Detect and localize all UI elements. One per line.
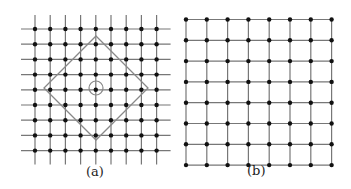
lattice-node: [154, 42, 158, 46]
lattice-node: [184, 80, 188, 84]
lattice-node: [33, 57, 37, 61]
lattice-node: [109, 27, 113, 31]
lattice-node: [205, 121, 209, 125]
lattice-node: [48, 148, 52, 152]
lattice-node: [63, 57, 67, 61]
lattice-node: [267, 101, 271, 105]
lattice-node: [63, 118, 67, 122]
lattice-node: [205, 59, 209, 63]
lattice-node: [33, 72, 37, 76]
lattice-node: [184, 17, 188, 21]
lattice-node: [139, 148, 143, 152]
lattice-node: [109, 42, 113, 46]
lattice-node: [124, 88, 128, 92]
lattice-node: [78, 148, 82, 152]
lattice-node: [329, 163, 333, 167]
lattice-node: [94, 88, 98, 92]
lattice-node: [267, 80, 271, 84]
lattice-node: [154, 148, 158, 152]
lattice-node: [267, 163, 271, 167]
lattice-node: [154, 118, 158, 122]
lattice-node: [225, 38, 229, 42]
lattice-node: [139, 42, 143, 46]
lattice-node: [78, 133, 82, 137]
lattice-node: [139, 103, 143, 107]
lattice-node: [225, 163, 229, 167]
lattice-node: [205, 101, 209, 105]
lattice-node: [288, 163, 292, 167]
lattice-node: [94, 57, 98, 61]
lattice-figure: [0, 0, 351, 189]
lattice-node: [48, 103, 52, 107]
lattice-node: [329, 101, 333, 105]
lattice-node: [225, 59, 229, 63]
lattice-node: [154, 133, 158, 137]
lattice-node: [184, 142, 188, 146]
lattice-node: [329, 38, 333, 42]
lattice-node: [225, 17, 229, 21]
lattice-node: [48, 118, 52, 122]
lattice-node: [63, 27, 67, 31]
lattice-node: [48, 72, 52, 76]
lattice-node: [267, 38, 271, 42]
lattice-node: [329, 80, 333, 84]
lattice-node: [329, 17, 333, 21]
lattice-node: [33, 88, 37, 92]
lattice-node: [246, 142, 250, 146]
lattice-node: [63, 42, 67, 46]
lattice-node: [154, 103, 158, 107]
lattice-node: [124, 72, 128, 76]
lattice-node: [184, 101, 188, 105]
lattice-node: [78, 42, 82, 46]
lattice-node: [205, 17, 209, 21]
lattice-node: [246, 17, 250, 21]
lattice-node: [154, 27, 158, 31]
lattice-node: [225, 121, 229, 125]
lattice-node: [329, 59, 333, 63]
lattice-node: [246, 101, 250, 105]
lattice-node: [288, 121, 292, 125]
lattice-node: [154, 72, 158, 76]
lattice-node: [288, 17, 292, 21]
lattice-node: [124, 148, 128, 152]
lattice-node: [109, 133, 113, 137]
lattice-node: [139, 72, 143, 76]
lattice-node: [109, 103, 113, 107]
lattice-node: [109, 72, 113, 76]
lattice-node: [33, 103, 37, 107]
lattice-node: [63, 72, 67, 76]
lattice-node: [329, 121, 333, 125]
lattice-node: [309, 80, 313, 84]
lattice-node: [246, 121, 250, 125]
lattice-node: [78, 57, 82, 61]
lattice-node: [205, 38, 209, 42]
lattice-node: [124, 133, 128, 137]
lattice-node: [94, 42, 98, 46]
lattice-node: [33, 133, 37, 137]
lattice-node: [309, 38, 313, 42]
lattice-node: [48, 88, 52, 92]
lattice-node: [288, 59, 292, 63]
lattice-node: [94, 27, 98, 31]
lattice-node: [288, 101, 292, 105]
lattice-node: [225, 101, 229, 105]
lattice-node: [309, 163, 313, 167]
lattice-node: [246, 59, 250, 63]
lattice-node: [225, 80, 229, 84]
lattice-node: [288, 142, 292, 146]
lattice-node: [154, 88, 158, 92]
lattice-node: [33, 118, 37, 122]
lattice-node: [246, 80, 250, 84]
lattice-node: [246, 38, 250, 42]
lattice-node: [124, 27, 128, 31]
lattice-node: [205, 163, 209, 167]
lattice-node: [78, 118, 82, 122]
lattice-node: [205, 142, 209, 146]
lattice-node: [309, 17, 313, 21]
lattice-node: [109, 57, 113, 61]
lattice-node: [139, 27, 143, 31]
lattice-node: [139, 133, 143, 137]
lattice-node: [124, 57, 128, 61]
lattice-node: [124, 42, 128, 46]
lattice-node: [63, 133, 67, 137]
